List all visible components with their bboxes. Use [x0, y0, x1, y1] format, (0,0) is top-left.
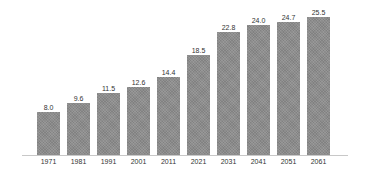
x-tick-label: 2051 — [274, 158, 304, 166]
bar-value-label: 14.4 — [154, 69, 184, 77]
bar-value-label: 18.5 — [184, 47, 214, 55]
x-tick-label: 2001 — [124, 158, 154, 166]
bar-2011 — [157, 77, 180, 155]
bar-2051 — [277, 22, 300, 155]
bar-1991 — [97, 93, 120, 155]
bar-value-label: 24.7 — [274, 14, 304, 22]
x-tick-label: 1981 — [64, 158, 94, 166]
x-axis-line — [22, 155, 348, 156]
x-tick-label: 2041 — [244, 158, 274, 166]
bar-2001 — [127, 87, 150, 155]
bar-value-label: 22.8 — [214, 24, 244, 32]
bar-value-label: 25.5 — [304, 9, 334, 17]
x-tick-label: 2061 — [304, 158, 334, 166]
x-tick-label: 1991 — [94, 158, 124, 166]
bar-2041 — [247, 25, 270, 155]
bar-value-label: 24.0 — [244, 17, 274, 25]
x-tick-label: 2031 — [214, 158, 244, 166]
x-tick-label: 1971 — [34, 158, 64, 166]
bar-2021 — [187, 55, 210, 155]
bar-1971 — [37, 112, 60, 155]
bar-value-label: 9.6 — [64, 95, 94, 103]
bar-1981 — [67, 103, 90, 155]
bar-value-label: 8.0 — [34, 104, 64, 112]
bar-value-label: 12.6 — [124, 79, 154, 87]
x-tick-label: 2011 — [154, 158, 184, 166]
bar-chart: 8.019719.6198111.5199112.6200114.4201118… — [0, 0, 368, 176]
bar-value-label: 11.5 — [94, 85, 124, 93]
bar-2061 — [307, 17, 330, 155]
bar-2031 — [217, 32, 240, 155]
x-tick-label: 2021 — [184, 158, 214, 166]
